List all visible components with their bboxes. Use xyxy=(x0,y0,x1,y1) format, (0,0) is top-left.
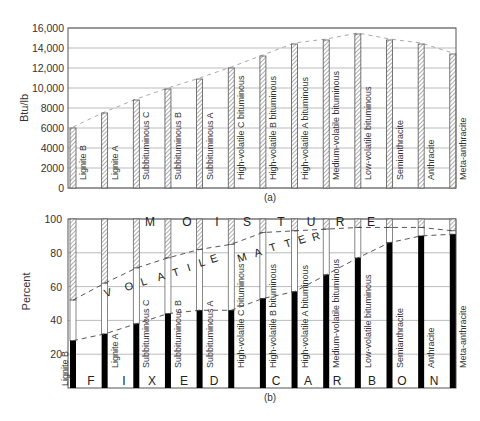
category-label: Subbituminous B xyxy=(173,300,183,368)
volatile-segment xyxy=(70,300,76,341)
volatile-segment xyxy=(418,227,424,235)
category-label: Medium-volatile bituminous xyxy=(331,70,341,180)
category-label: Medium-volatile bituminous xyxy=(331,258,341,368)
moisture-letter: T xyxy=(277,215,285,229)
bar xyxy=(292,44,298,188)
fixed-carbon-segment xyxy=(418,236,424,388)
volatile-segment xyxy=(165,258,171,314)
fixed-carbon-segment xyxy=(292,292,298,388)
category-label: High-volatile A bituminous xyxy=(300,76,310,180)
category-label: Subbituminous C xyxy=(141,299,151,368)
category-label: Subbituminous B xyxy=(173,112,183,180)
volatile-letter: I xyxy=(185,261,192,273)
volatile-letter: L xyxy=(139,275,149,288)
fixed-carbon-segment xyxy=(260,298,266,388)
fixed-carbon-letter: D xyxy=(210,374,219,388)
volatile-letter: M xyxy=(236,250,248,264)
fixed-carbon-segment xyxy=(450,234,456,388)
volatile-segment xyxy=(228,244,234,310)
fixed-carbon-segment xyxy=(165,314,171,388)
y-tick-label: 80 xyxy=(50,247,62,259)
bar xyxy=(70,128,76,188)
bar xyxy=(418,44,424,188)
moisture-segment xyxy=(133,219,139,268)
category-label: High-volatile C bituminous xyxy=(236,75,246,180)
panel-label-b: (b) xyxy=(264,392,276,403)
fixed-carbon-letter: N xyxy=(430,374,439,388)
volatile-segment xyxy=(355,227,361,257)
volatile-letter: T xyxy=(171,265,181,279)
fixed-carbon-letter: C xyxy=(272,374,281,388)
volatile-letter: R xyxy=(310,229,321,243)
y-tick-label: 8000 xyxy=(41,102,65,114)
y-tick-label: 16,000 xyxy=(32,22,64,34)
bar xyxy=(133,100,139,188)
bar xyxy=(197,79,203,188)
moisture-letter: I xyxy=(215,215,218,229)
moisture-letter: S xyxy=(243,215,251,229)
panel-label-a: (a) xyxy=(264,192,276,203)
y-tick-label: 40 xyxy=(50,314,62,326)
bar xyxy=(323,40,329,188)
moisture-segment xyxy=(450,219,456,231)
category-label: Meta-anthracite xyxy=(458,305,468,368)
fixed-carbon-segment xyxy=(197,310,203,388)
fixed-carbon-segment xyxy=(133,324,139,388)
category-label: Low-volatile bituminous xyxy=(363,86,373,180)
volatile-segment xyxy=(292,231,298,292)
fixed-carbon-segment xyxy=(387,243,393,388)
y-tick-label: 100 xyxy=(44,213,62,225)
chart-canvas: 0200040006000800010,00012,00014,00016,00… xyxy=(0,0,480,421)
bar xyxy=(165,89,171,188)
volatile-letter: E xyxy=(208,251,219,265)
bar xyxy=(102,113,108,188)
bar xyxy=(355,34,361,188)
category-label: High-volatile B bituminous xyxy=(268,75,278,180)
fixed-carbon-letter: F xyxy=(87,374,94,388)
volatile-segment xyxy=(260,233,266,299)
category-label: Subbituminous A xyxy=(205,112,215,180)
moisture-segment xyxy=(165,219,171,258)
fixed-carbon-letter: X xyxy=(148,374,156,388)
y-tick-label: 12,000 xyxy=(32,62,64,74)
volatile-letter: T xyxy=(268,240,278,254)
fixed-carbon-segment xyxy=(228,310,234,388)
moisture-segment xyxy=(292,219,298,231)
fixed-carbon-letter: A xyxy=(304,374,312,388)
volatile-letter: E xyxy=(296,232,307,246)
category-label: Low-volatile bituminous xyxy=(363,274,373,368)
category-label: High-volatile B bituminous xyxy=(268,263,278,368)
volatile-segment xyxy=(323,229,329,275)
category-label: Lignite A xyxy=(110,145,120,180)
moisture-letter: M xyxy=(145,215,155,229)
moisture-segment xyxy=(323,219,329,229)
category-label: Lignite A xyxy=(110,333,120,368)
category-label: Lignite B xyxy=(60,351,70,386)
fixed-carbon-letter: R xyxy=(333,374,342,388)
y-axis-label: Btu/lb xyxy=(18,94,30,122)
category-label: Subbituminous C xyxy=(141,111,151,180)
coal-rank-figure: 0200040006000800010,00012,00014,00016,00… xyxy=(0,0,480,421)
y-tick-label: 0 xyxy=(58,182,64,194)
category-label: High-volatile C bituminous xyxy=(236,263,246,368)
moisture-segment xyxy=(355,219,361,227)
y-axis-label: Percent xyxy=(20,273,32,311)
fixed-carbon-segment xyxy=(323,275,329,388)
y-tick-label: 6000 xyxy=(41,122,65,134)
category-label: Meta-anthracite xyxy=(458,117,468,180)
moisture-segment xyxy=(387,219,393,227)
y-tick-label: 4000 xyxy=(41,142,65,154)
bar xyxy=(260,56,266,188)
volatile-segment xyxy=(450,231,456,234)
moisture-segment xyxy=(70,219,76,300)
moisture-segment xyxy=(228,219,234,244)
y-tick-label: 10,000 xyxy=(32,82,64,94)
category-label: Semianthracite xyxy=(395,308,405,368)
moisture-letter: U xyxy=(307,215,316,229)
chart-a-btu: 0200040006000800010,00012,00014,00016,00… xyxy=(18,22,468,203)
fixed-carbon-letter: E xyxy=(180,374,188,388)
fixed-carbon-letter: I xyxy=(122,374,125,388)
moisture-letter: E xyxy=(367,215,375,229)
fixed-carbon-segment xyxy=(70,341,76,388)
bar xyxy=(387,40,393,188)
